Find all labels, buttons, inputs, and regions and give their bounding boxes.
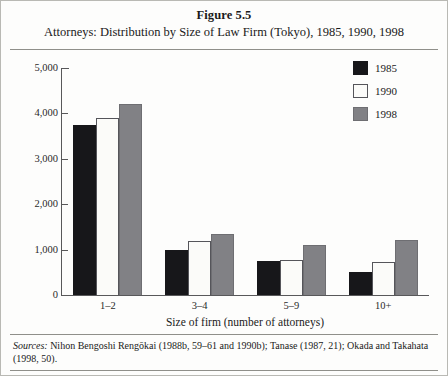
figure-title-block: Figure 5.5 Attorneys: Distribution by Si… — [1, 1, 447, 45]
bar-1985-10+ — [349, 272, 372, 295]
bar-1998-10+ — [395, 240, 418, 295]
figure-caption: Attorneys: Distribution by Size of Law F… — [15, 24, 433, 40]
bar-1998-59 — [303, 245, 326, 295]
legend-item-1998: 1998 — [353, 104, 397, 124]
x-axis-title: Size of firm (number of attorneys) — [61, 316, 429, 328]
source-citation: Nihon Bengoshi Rengōkai (1988b, 59–61 an… — [13, 340, 428, 364]
x-axis-tick-label: 1–2 — [73, 300, 143, 311]
legend-item-1990: 1990 — [353, 81, 397, 101]
bar-1990-34 — [188, 241, 211, 295]
legend-label: 1990 — [375, 84, 397, 98]
source-divider-rule-bottom — [10, 370, 438, 371]
y-axis-tick-label: 2,000 — [1, 198, 69, 210]
bar-group — [246, 68, 338, 295]
bar-1990-12 — [96, 118, 119, 295]
bar-1998-12 — [119, 104, 142, 295]
bar-1985-12 — [73, 125, 96, 295]
source-note: Sources: Nihon Bengoshi Rengōkai (1988b,… — [1, 335, 447, 370]
legend-label: 1985 — [375, 61, 397, 75]
x-axis-tick-label: 5–9 — [256, 300, 326, 311]
source-note-block: Sources: Nihon Bengoshi Rengōkai (1988b,… — [1, 334, 447, 375]
legend-label: 1998 — [375, 107, 397, 121]
x-axis-tick-label: 3–4 — [165, 300, 235, 311]
y-axis-tick-label: 4,000 — [1, 107, 69, 119]
y-axis-tick-label: 0 — [1, 289, 69, 301]
chart-legend: 198519901998 — [353, 58, 397, 127]
bar-1990-10+ — [372, 262, 395, 295]
y-axis-tick-label: 5,000 — [1, 62, 69, 74]
figure-container: Figure 5.5 Attorneys: Distribution by Si… — [0, 0, 448, 376]
figure-number: Figure 5.5 — [15, 8, 433, 23]
legend-swatch-icon — [353, 84, 368, 98]
y-axis-tick-mark — [62, 295, 68, 296]
bar-1998-34 — [211, 234, 234, 295]
y-axis-tick-label: 1,000 — [1, 244, 69, 256]
bar-1985-59 — [257, 261, 280, 295]
x-axis-tick-label: 10+ — [348, 300, 418, 311]
chart-plot-region: 5,0004,0003,0002,0001,0000 1–23–45–910+ … — [1, 50, 447, 339]
bar-group — [62, 68, 154, 295]
x-axis-line — [61, 295, 429, 296]
bar-1985-34 — [165, 250, 188, 295]
source-label: Sources: — [13, 340, 48, 351]
bar-1990-59 — [280, 260, 303, 295]
bar-group — [154, 68, 246, 295]
y-axis-tick-label: 3,000 — [1, 153, 69, 165]
legend-item-1985: 1985 — [353, 58, 397, 78]
legend-swatch-icon — [353, 107, 368, 121]
legend-swatch-icon — [353, 61, 368, 75]
